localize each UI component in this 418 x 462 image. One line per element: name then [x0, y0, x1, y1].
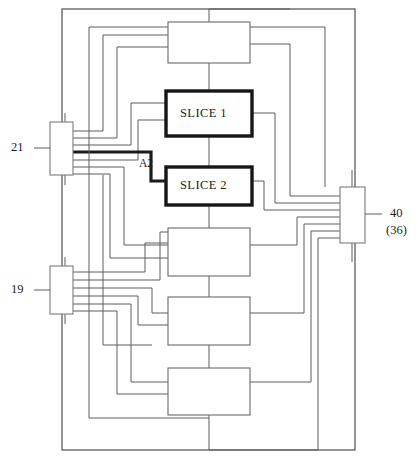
connector-19-ref-label: 19 — [11, 283, 24, 296]
connector-19-body[interactable] — [50, 266, 73, 314]
block-top[interactable] — [168, 22, 250, 63]
connector-40-ref-label: 40 — [390, 207, 403, 220]
block-slice-2-label: SLICE 2 — [180, 179, 227, 192]
block-mid-2[interactable] — [168, 297, 250, 345]
connector-40-ref-alt-label: (36) — [386, 224, 407, 237]
connector-19-bus — [73, 232, 168, 394]
a2-signal-label: A2 — [139, 158, 153, 170]
block-bottom[interactable] — [168, 368, 250, 415]
connector-40-body[interactable] — [340, 187, 365, 243]
block-slice-1-label: SLICE 1 — [180, 107, 227, 120]
connector-21-ref-label: 21 — [11, 141, 24, 154]
block-diagram: SLICE 1 SLICE 2 21 19 40 (36) A2 — [0, 0, 418, 462]
block-mid-1[interactable] — [168, 228, 250, 276]
diagram-canvas — [0, 0, 418, 462]
connector-21-bus — [73, 35, 168, 258]
connector-21-body[interactable] — [50, 122, 73, 175]
